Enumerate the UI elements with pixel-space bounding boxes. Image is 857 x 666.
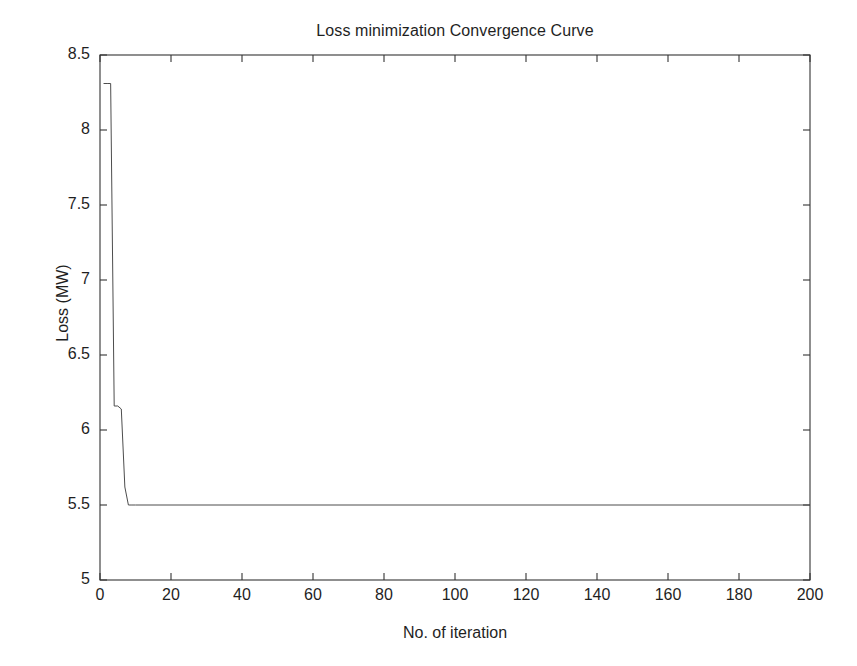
y-tick-label: 6 [30, 420, 90, 438]
axes-frame [100, 55, 810, 580]
x-tick-label: 180 [709, 586, 769, 604]
x-tick-label: 40 [212, 586, 272, 604]
x-tick-label: 0 [70, 586, 130, 604]
y-tick-label: 5.5 [30, 495, 90, 513]
x-tick-label: 60 [283, 586, 343, 604]
x-tick-label: 160 [638, 586, 698, 604]
x-tick-label: 120 [496, 586, 556, 604]
plot-area [0, 0, 857, 666]
axes-box [100, 55, 810, 580]
x-tick-label: 140 [567, 586, 627, 604]
data-series [104, 84, 810, 506]
chart-figure: Loss minimization Convergence Curve 55.5… [0, 0, 857, 666]
x-axis-label: No. of iteration [100, 624, 810, 642]
y-tick-label: 8 [30, 120, 90, 138]
series-line-loss [104, 84, 810, 506]
y-tick-label: 8.5 [30, 45, 90, 63]
axis-ticks [100, 55, 810, 580]
y-axis-label: Loss (MW) [54, 203, 72, 403]
x-tick-label: 100 [425, 586, 485, 604]
x-tick-label: 200 [780, 586, 840, 604]
x-tick-label: 20 [141, 586, 201, 604]
x-tick-label: 80 [354, 586, 414, 604]
